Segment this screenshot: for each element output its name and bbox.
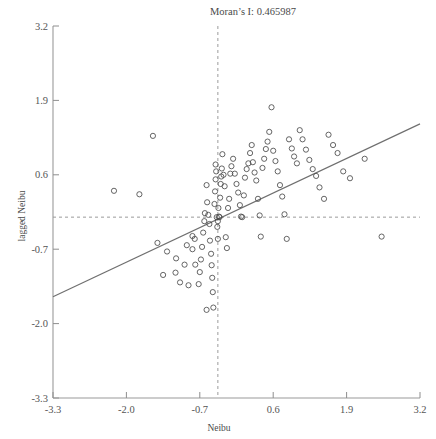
scatter-point[interactable] [224, 245, 229, 250]
scatter-point[interactable] [258, 234, 263, 239]
scatter-point[interactable] [210, 290, 215, 295]
scatter-point[interactable] [219, 166, 224, 171]
scatter-point[interactable] [216, 205, 221, 210]
scatter-point[interactable] [271, 148, 276, 153]
scatter-point[interactable] [297, 128, 302, 133]
scatter-point[interactable] [173, 270, 178, 275]
scatter-point[interactable] [241, 193, 246, 198]
scatter-point[interactable] [207, 238, 212, 243]
scatter-point[interactable] [249, 142, 254, 147]
scatter-point[interactable] [225, 205, 230, 210]
x-tick-label: -2.0 [118, 404, 135, 415]
scatter-point[interactable] [265, 139, 270, 144]
scatter-point[interactable] [208, 251, 213, 256]
scatter-point[interactable] [199, 244, 204, 249]
scatter-point[interactable] [223, 235, 228, 240]
x-axis-title: Neibu [207, 423, 230, 433]
scatter-point[interactable] [317, 185, 322, 190]
scatter-point[interactable] [362, 156, 367, 161]
scatter-point[interactable] [164, 249, 169, 254]
scatter-point[interactable] [204, 183, 209, 188]
scatter-point[interactable] [204, 307, 209, 312]
scatter-point[interactable] [310, 166, 315, 171]
scatter-point[interactable] [262, 156, 267, 161]
scatter-point[interactable] [267, 129, 272, 134]
scatter-point[interactable] [326, 132, 331, 137]
scatter-point[interactable] [184, 243, 189, 248]
scatter-point[interactable] [379, 234, 384, 239]
scatter-point[interactable] [212, 189, 217, 194]
scatter-point[interactable] [300, 137, 305, 142]
scatter-point[interactable] [227, 196, 232, 201]
y-tick-group: 3.21.90.6-0.7-2.0-3.3 [31, 21, 59, 404]
y-tick-label: 3.2 [35, 21, 48, 32]
scatter-point[interactable] [137, 192, 142, 197]
scatter-point[interactable] [202, 219, 207, 224]
y-tick-label: -2.0 [31, 318, 48, 329]
scatter-point[interactable] [211, 305, 216, 310]
scatter-point[interactable] [273, 158, 278, 163]
scatter-point[interactable] [201, 230, 206, 235]
x-axis: -3.3-2.0-0.70.61.93.2 Neibu [45, 392, 427, 433]
scatter-point[interactable] [173, 256, 178, 261]
scatter-point[interactable] [263, 146, 268, 151]
scatter-point[interactable] [330, 142, 335, 147]
scatter-point[interactable] [314, 173, 319, 178]
scatter-point[interactable] [210, 275, 215, 280]
scatter-point[interactable] [284, 236, 289, 241]
scatter-point[interactable] [244, 166, 249, 171]
scatter-point[interactable] [196, 282, 201, 287]
mean-reference-lines [53, 26, 420, 398]
scatter-point[interactable] [190, 247, 195, 252]
scatterplot-canvas[interactable]: Moran’s I: 0.465987 3.21.90.6-0.7-2.0-3.… [0, 0, 436, 439]
scatter-point[interactable] [222, 184, 227, 189]
scatter-point[interactable] [213, 177, 218, 182]
scatter-point[interactable] [307, 157, 312, 162]
scatter-point[interactable] [212, 201, 217, 206]
scatter-point[interactable] [220, 152, 225, 157]
scatter-point[interactable] [182, 262, 187, 267]
x-tick-label: 1.9 [340, 404, 353, 415]
scatter-point[interactable] [277, 183, 282, 188]
scatter-point[interactable] [347, 176, 352, 181]
scatter-point[interactable] [198, 257, 203, 262]
scatter-point[interactable] [289, 146, 294, 151]
scatter-point[interactable] [186, 283, 191, 288]
scatter-point[interactable] [231, 156, 236, 161]
scatter-point[interactable] [229, 164, 234, 169]
scatter-point[interactable] [269, 105, 274, 110]
scatter-point[interactable] [294, 161, 299, 166]
scatter-point[interactable] [335, 150, 340, 155]
scatter-point[interactable] [286, 137, 291, 142]
scatter-point[interactable] [234, 181, 239, 186]
scatter-point[interactable] [254, 178, 259, 183]
scatter-points[interactable] [111, 105, 384, 313]
y-tick-label: 1.9 [35, 95, 48, 106]
scatter-point[interactable] [247, 150, 252, 155]
scatter-point[interactable] [237, 203, 242, 208]
scatter-point[interactable] [215, 224, 220, 229]
scatter-point[interactable] [205, 200, 210, 205]
scatter-point[interactable] [303, 147, 308, 152]
scatter-point[interactable] [242, 175, 247, 180]
scatter-point[interactable] [161, 272, 166, 277]
y-tick-label: -0.7 [31, 244, 48, 255]
scatter-point[interactable] [341, 169, 346, 174]
scatter-point[interactable] [260, 165, 265, 170]
scatter-point[interactable] [236, 190, 241, 195]
scatter-point[interactable] [280, 194, 285, 199]
scatter-point[interactable] [252, 170, 257, 175]
scatter-point[interactable] [218, 195, 223, 200]
scatter-point[interactable] [209, 263, 214, 268]
scatter-point[interactable] [150, 133, 155, 138]
scatter-point[interactable] [321, 196, 326, 201]
scatter-point[interactable] [177, 280, 182, 285]
y-tick-label: 0.6 [35, 169, 48, 180]
scatter-point[interactable] [291, 154, 296, 159]
scatter-point[interactable] [193, 262, 198, 267]
scatter-point[interactable] [155, 240, 160, 245]
scatter-point[interactable] [275, 169, 280, 174]
scatter-point[interactable] [197, 269, 202, 274]
scatter-point[interactable] [282, 212, 287, 217]
scatter-point[interactable] [111, 188, 116, 193]
